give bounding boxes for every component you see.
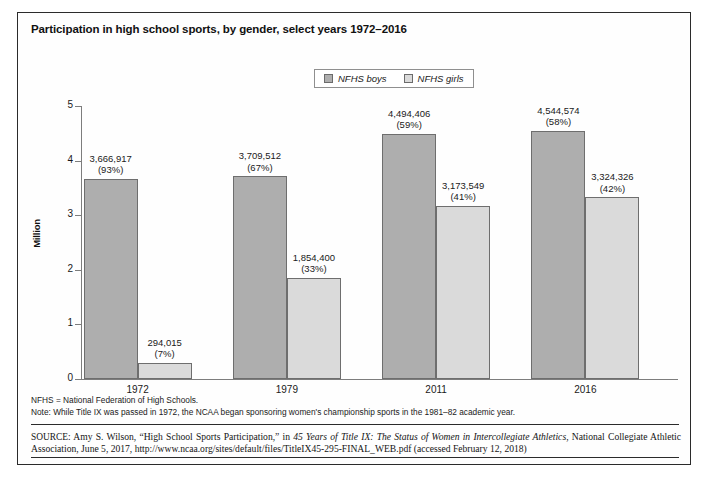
bar-label-1979-girls: 1,854,400(33%) <box>269 252 359 275</box>
bar-value-percent: (42%) <box>567 183 657 195</box>
divider-rule-bottom <box>31 457 679 458</box>
source-italic-title: 45 Years of Title IX: The Status of Wome… <box>293 431 566 442</box>
bar-value-number: 294,015 <box>120 337 210 349</box>
x-axis-line <box>81 379 678 380</box>
bar-label-2016-girls: 3,324,326(42%) <box>567 171 657 194</box>
bar-value-number: 3,173,549 <box>418 180 508 192</box>
bar-1979-girls <box>287 278 341 379</box>
bar-2016-girls <box>585 197 639 379</box>
y-tick-mark <box>75 270 81 271</box>
bar-1972-girls <box>138 363 192 379</box>
y-axis-line <box>81 106 82 380</box>
bar-value-number: 4,494,406 <box>364 108 454 120</box>
bar-value-percent: (59%) <box>364 119 454 131</box>
bar-2011-boys <box>382 134 436 379</box>
y-tick-label: 1 <box>27 317 73 328</box>
bar-1979-boys <box>233 176 287 379</box>
figure-frame: Participation in high school sports, by … <box>17 12 691 465</box>
bar-label-2011-boys: 4,494,406(59%) <box>364 108 454 131</box>
divider-rule <box>31 424 679 425</box>
source-text-1: Amy S. Wilson, “High School Sports Parti… <box>71 431 294 442</box>
y-tick-mark <box>75 379 81 380</box>
y-tick-label: 3 <box>27 208 73 219</box>
bar-value-number: 3,324,326 <box>567 171 657 183</box>
bar-value-percent: (93%) <box>66 164 156 176</box>
bar-value-number: 3,709,512 <box>215 150 305 162</box>
note-abbreviation: NFHS = National Federation of High Schoo… <box>31 395 681 407</box>
x-axis-label-2016: 2016 <box>545 384 625 395</box>
y-tick-mark <box>75 324 81 325</box>
bar-label-1972-girls: 294,015(7%) <box>120 337 210 360</box>
bar-value-number: 3,666,917 <box>66 153 156 165</box>
bar-label-1979-boys: 3,709,512(67%) <box>215 150 305 173</box>
x-axis-label-1972: 1972 <box>98 384 178 395</box>
bar-2011-girls <box>436 206 490 379</box>
y-tick-mark <box>75 215 81 216</box>
figure-notes: NFHS = National Federation of High Schoo… <box>31 395 681 418</box>
y-tick-label: 0 <box>27 372 73 383</box>
x-axis-label-1979: 1979 <box>247 384 327 395</box>
y-tick-label: 5 <box>27 99 73 110</box>
x-axis-label-2011: 2011 <box>396 384 476 395</box>
y-tick-mark <box>75 106 81 107</box>
bar-label-2016-boys: 4,544,574(58%) <box>513 105 603 128</box>
bar-value-number: 1,854,400 <box>269 252 359 264</box>
bar-2016-boys <box>531 131 585 379</box>
bar-label-2011-girls: 3,173,549(41%) <box>418 180 508 203</box>
bar-value-number: 4,544,574 <box>513 105 603 117</box>
bar-value-percent: (58%) <box>513 116 603 128</box>
bar-value-percent: (7%) <box>120 348 210 360</box>
figure-source: SOURCE: Amy S. Wilson, “High School Spor… <box>31 431 681 456</box>
bar-value-percent: (67%) <box>215 162 305 174</box>
note-title-ix: Note: While Title IX was passed in 1972,… <box>31 407 681 419</box>
bar-value-percent: (33%) <box>269 263 359 275</box>
bar-value-percent: (41%) <box>418 191 508 203</box>
y-tick-label: 2 <box>27 263 73 274</box>
source-prefix: SOURCE: <box>31 432 71 442</box>
bar-label-1972-boys: 3,666,917(93%) <box>66 153 156 176</box>
